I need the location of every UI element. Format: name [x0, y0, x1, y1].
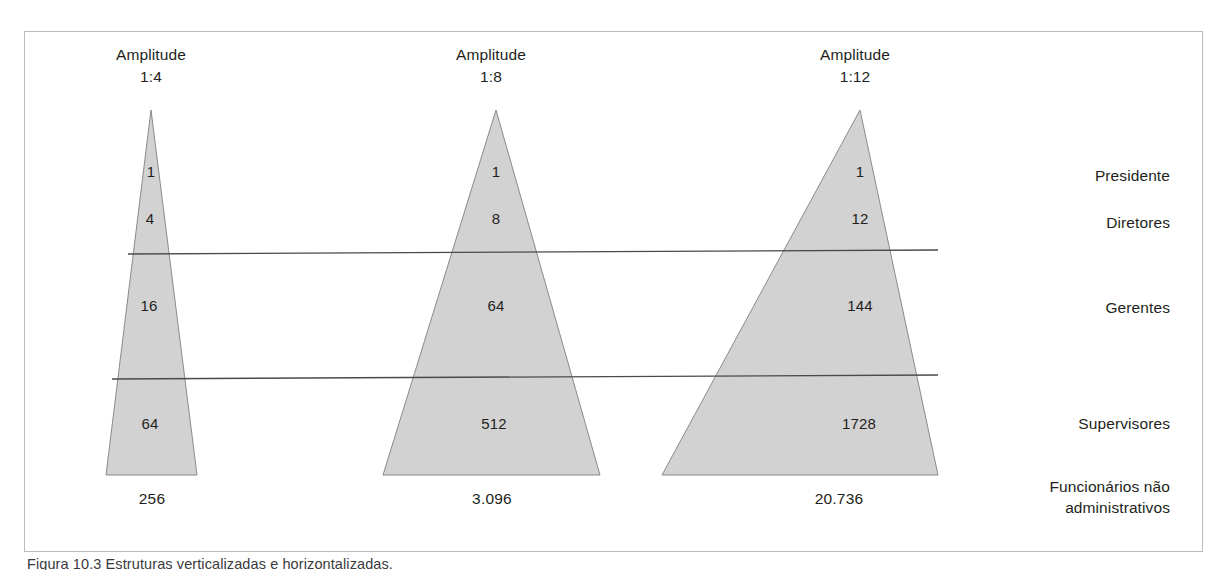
row-label-diretores: Diretores	[970, 213, 1170, 234]
tier-value-diretores-1: 4	[120, 210, 180, 227]
amplitude-ratio-1: 1:4	[140, 68, 162, 85]
tier-value-gerentes-3: 144	[830, 297, 890, 314]
amplitude-label-1: Amplitude	[116, 46, 186, 63]
column-title-amplitude-1-8: Amplitude 1:8	[411, 44, 571, 89]
tier-value-supervisores-1: 64	[120, 415, 180, 432]
base-total-2: 3.096	[452, 490, 532, 508]
tier-value-gerentes-1: 16	[119, 297, 179, 314]
tier-value-supervisores-3: 1728	[829, 415, 889, 432]
figure-caption: Figura 10.3 Estruturas verticalizadas e …	[27, 556, 393, 570]
tier-value-presidente-2: 1	[466, 163, 526, 180]
row-label-supervisores: Supervisores	[970, 414, 1170, 435]
column-title-amplitude-1-4: Amplitude 1:4	[71, 44, 231, 89]
row-label-presidente: Presidente	[970, 166, 1170, 187]
tier-value-presidente-1: 1	[121, 163, 181, 180]
amplitude-label-3: Amplitude	[820, 46, 890, 63]
column-title-amplitude-1-12: Amplitude 1:12	[775, 44, 935, 89]
row-label-gerentes: Gerentes	[970, 298, 1170, 319]
tier-value-gerentes-2: 64	[466, 297, 526, 314]
base-total-3: 20.736	[799, 490, 879, 508]
tier-value-presidente-3: 1	[830, 163, 890, 180]
amplitude-ratio-3: 1:12	[840, 68, 871, 85]
tier-value-supervisores-2: 512	[464, 415, 524, 432]
amplitude-label-2: Amplitude	[456, 46, 526, 63]
pyramid-amplitude-1-12	[662, 110, 938, 475]
amplitude-ratio-2: 1:8	[480, 68, 502, 85]
tier-value-diretores-3: 12	[830, 210, 890, 227]
base-total-1: 256	[112, 490, 192, 508]
tier-value-diretores-2: 8	[466, 210, 526, 227]
row-label-funcionarios-nao-administrativos: Funcionários não administrativos	[970, 477, 1170, 519]
